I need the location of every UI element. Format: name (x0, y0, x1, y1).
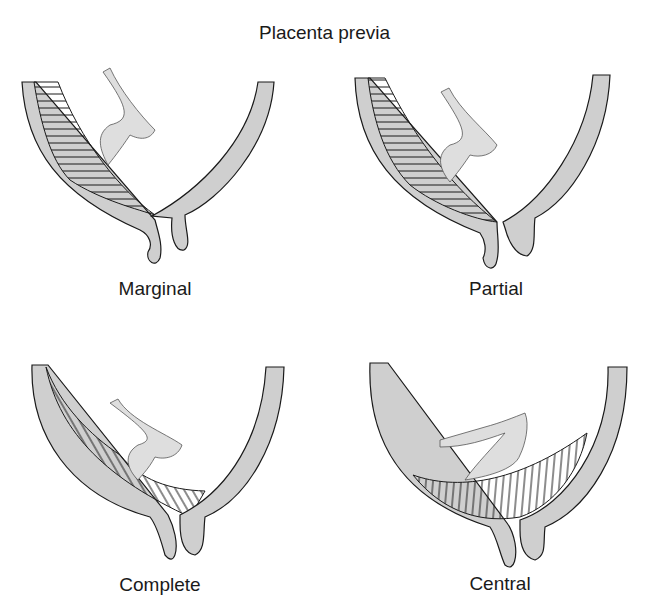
label-partial: Partial (396, 278, 596, 300)
uterus-marginal-illustration (0, 0, 325, 305)
panel-complete: Complete (0, 305, 325, 609)
panel-partial: Partial (325, 0, 649, 305)
uterus-complete-illustration (0, 305, 325, 609)
uterus-partial-illustration (325, 0, 649, 305)
panel-central: Central (325, 305, 649, 609)
uterus-central-illustration (325, 305, 649, 609)
label-marginal: Marginal (55, 278, 255, 300)
panel-marginal: Marginal (0, 0, 325, 305)
label-central: Central (400, 573, 600, 595)
label-complete: Complete (60, 574, 260, 596)
